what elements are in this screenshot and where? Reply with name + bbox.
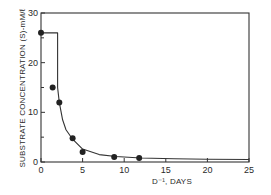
y-tick-label: 30 [28, 8, 38, 18]
axis-ticks: 05101520250102030 [28, 8, 254, 175]
data-point [111, 154, 117, 160]
x-tick-label: 15 [161, 165, 171, 175]
x-tick-label: 20 [202, 165, 212, 175]
data-point [80, 149, 86, 155]
data-point [50, 85, 56, 91]
data-point [38, 30, 44, 36]
x-tick-label: 5 [80, 165, 85, 175]
x-axis-label: D⁻¹, DAYS [152, 177, 192, 186]
x-tick-label: 0 [38, 165, 43, 175]
data-points [38, 30, 142, 161]
y-axis-label: SUBSTRATE CONCENTRATION (S)-mM/ℓ [18, 8, 27, 167]
data-point [70, 135, 76, 141]
data-point [56, 99, 62, 105]
chart: 05101520250102030 D⁻¹, DAYS SUBSTRATE CO… [0, 0, 271, 195]
y-tick-label: 0 [33, 157, 38, 167]
data-point [136, 155, 142, 161]
y-tick-label: 20 [28, 58, 38, 68]
x-tick-label: 10 [119, 165, 129, 175]
y-tick-label: 10 [28, 107, 38, 117]
x-tick-label: 25 [244, 165, 254, 175]
